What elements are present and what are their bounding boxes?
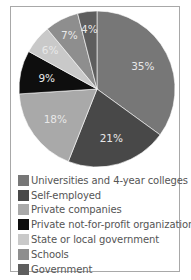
legend-item: Self-employed [18, 188, 191, 203]
legend-item: Private not-for-profit organizations [18, 217, 191, 232]
legend-label: Universities and 4-year colleges [31, 175, 188, 186]
legend-item: State or local government [18, 232, 191, 247]
legend-swatch [18, 234, 29, 245]
slice-value-label: 6% [42, 44, 59, 56]
legend-label: Self-employed [31, 190, 101, 201]
legend-label: Private companies [31, 204, 122, 215]
pie-chart: 35%21%18%9%6%7%4% [0, 0, 191, 170]
legend-swatch [18, 219, 29, 230]
legend-swatch [18, 175, 29, 186]
legend-item: Government [18, 262, 191, 277]
slice-value-label: 4% [81, 23, 98, 35]
slice-value-label: 9% [38, 72, 55, 84]
legend-swatch [18, 204, 29, 215]
legend-swatch [18, 190, 29, 201]
legend-label: State or local government [31, 234, 159, 245]
slice-value-label: 7% [61, 29, 78, 41]
legend-item: Universities and 4-year colleges [18, 173, 191, 188]
legend-label: Government [31, 264, 92, 275]
slice-value-label: 18% [44, 113, 67, 125]
slice-value-label: 21% [100, 132, 123, 144]
legend-item: Private companies [18, 203, 191, 218]
legend-item: Schools [18, 247, 191, 262]
legend-swatch [18, 249, 29, 260]
slice-value-label: 35% [131, 60, 154, 72]
legend-swatch [18, 264, 29, 275]
legend-label: Schools [31, 249, 69, 260]
legend-label: Private not-for-profit organizations [31, 219, 191, 230]
legend: Universities and 4-year collegesSelf-emp… [18, 173, 191, 277]
